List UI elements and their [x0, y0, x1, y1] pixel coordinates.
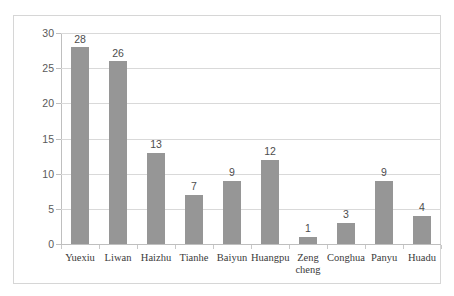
bar[interactable] [413, 216, 431, 244]
bar-slot: 12 [251, 33, 289, 244]
bar-slot: 4 [403, 33, 441, 244]
category-axis-label-line: Huadu [403, 252, 441, 264]
bar-value-label: 1 [305, 223, 311, 234]
value-axis-tick-label: 5 [28, 204, 54, 215]
value-axis-tick-label: 10 [28, 169, 54, 180]
category-axis-tick [327, 245, 328, 249]
bar[interactable] [223, 181, 241, 244]
bar-value-label: 9 [229, 167, 235, 178]
bar[interactable] [375, 181, 393, 244]
category-axis-label-line: Tianhe [175, 252, 213, 264]
bar[interactable] [299, 237, 317, 244]
category-axis-label: Zengcheng [289, 252, 327, 276]
category-axis-label-line: Liwan [99, 252, 137, 264]
bar-slot: 9 [365, 33, 403, 244]
bar-value-label: 9 [381, 167, 387, 178]
bar-slot: 1 [289, 33, 327, 244]
category-axis-tick [441, 245, 442, 249]
bar-value-label: 4 [419, 202, 425, 213]
category-axis-label: Panyu [365, 252, 403, 264]
category-axis-tick [289, 245, 290, 249]
chart-frame: 051015202530 28261379121394 YuexiuLiwanH… [13, 15, 441, 284]
category-axis-label: Haizhu [137, 252, 175, 264]
bar-value-label: 3 [343, 209, 349, 220]
value-axis-tick-label: 30 [28, 28, 54, 39]
bar-slot: 7 [175, 33, 213, 244]
category-axis-label: Huangpu [251, 252, 289, 264]
bar-slot: 3 [327, 33, 365, 244]
category-axis-label-line: Zeng [289, 252, 327, 264]
category-axis-label-line: cheng [289, 264, 327, 276]
bar-slot: 9 [213, 33, 251, 244]
value-axis-tick-label: 25 [28, 63, 54, 74]
plot-area: 28261379121394 [61, 33, 441, 244]
value-axis-tick-label: 0 [28, 239, 54, 250]
bar[interactable] [109, 61, 127, 244]
bar-value-label: 26 [112, 48, 124, 59]
bar[interactable] [71, 47, 89, 244]
category-axis-label: Tianhe [175, 252, 213, 264]
bar-value-label: 7 [191, 181, 197, 192]
category-axis-label: Huadu [403, 252, 441, 264]
category-axis-labels: YuexiuLiwanHaizhuTianheBaiyunHuangpuZeng… [61, 252, 441, 284]
bar-slot: 26 [99, 33, 137, 244]
bar[interactable] [185, 195, 203, 244]
category-axis-label-line: Baiyun [213, 252, 251, 264]
category-axis-label-line: Conghua [327, 252, 365, 264]
category-axis-label-line: Huangpu [251, 252, 289, 264]
value-axis-labels: 051015202530 [22, 16, 54, 285]
category-axis-label-line: Yuexiu [61, 252, 99, 264]
category-axis-label: Conghua [327, 252, 365, 264]
category-axis-tick [365, 245, 366, 249]
bar-slot: 28 [61, 33, 99, 244]
category-axis-label: Yuexiu [61, 252, 99, 264]
bar-slot: 13 [137, 33, 175, 244]
bar-value-label: 28 [74, 34, 86, 45]
bar-value-label: 12 [264, 146, 276, 157]
category-axis-label: Liwan [99, 252, 137, 264]
category-axis-tick [251, 245, 252, 249]
category-axis-tick [137, 245, 138, 249]
category-axis-tick [61, 245, 62, 249]
category-axis-tick [175, 245, 176, 249]
bar[interactable] [147, 153, 165, 244]
bar-value-label: 13 [150, 139, 162, 150]
value-axis-tick-label: 15 [28, 134, 54, 145]
category-axis-label: Baiyun [213, 252, 251, 264]
category-axis-tick [99, 245, 100, 249]
category-axis-label-line: Haizhu [137, 252, 175, 264]
category-axis-tick [213, 245, 214, 249]
category-axis-label-line: Panyu [365, 252, 403, 264]
category-axis-tick [403, 245, 404, 249]
bar[interactable] [261, 160, 279, 244]
value-axis-tick-label: 20 [28, 98, 54, 109]
bar[interactable] [337, 223, 355, 244]
